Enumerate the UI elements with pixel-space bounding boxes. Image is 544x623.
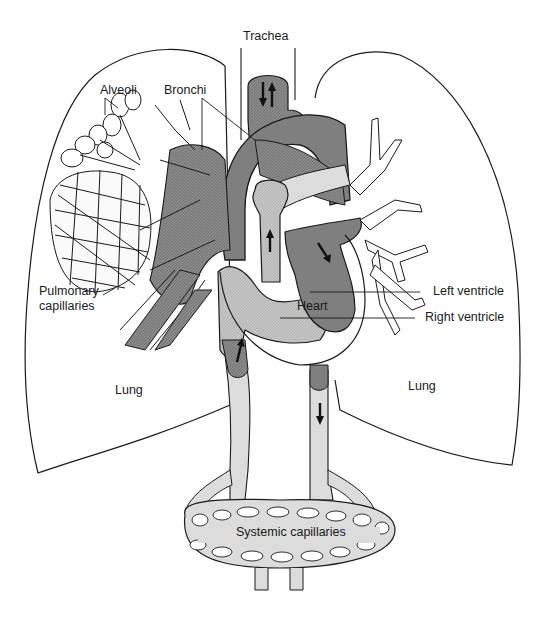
label-right-ventricle: Right ventricle bbox=[425, 311, 504, 325]
label-alveoli: Alveoli bbox=[100, 84, 137, 98]
circulation-diagram: Trachea Alveoli Bronchi Pulmonary capill… bbox=[0, 0, 544, 623]
label-pulmonary-capillaries-2: capillaries bbox=[39, 300, 95, 314]
descending-aorta-dark-top bbox=[310, 365, 328, 390]
label-systemic-capillaries: Systemic capillaries bbox=[236, 526, 346, 540]
label-trachea: Trachea bbox=[243, 30, 288, 44]
label-lung-left: Lung bbox=[115, 384, 143, 398]
label-left-ventricle: Left ventricle bbox=[433, 285, 504, 299]
pulmonary-capillaries-net bbox=[50, 170, 151, 292]
label-pulmonary-capillaries-1: Pulmonary bbox=[39, 285, 99, 299]
label-lung-right: Lung bbox=[408, 380, 436, 394]
right-lung-outline bbox=[315, 52, 520, 465]
label-bronchi: Bronchi bbox=[164, 84, 206, 98]
label-heart: Heart bbox=[297, 300, 328, 314]
lower-vessel-stubs bbox=[255, 568, 303, 590]
